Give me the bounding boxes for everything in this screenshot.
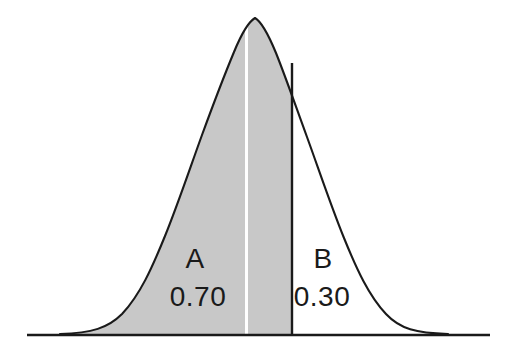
shaded-area-region-a <box>60 18 448 334</box>
normal-curve-figure: A 0.70 B 0.30 <box>0 0 518 356</box>
distribution-curve-chart <box>0 0 518 356</box>
region-b-letter-label: B <box>288 245 358 273</box>
region-b-value-label: 0.30 <box>274 283 370 311</box>
region-a-value-label: 0.70 <box>150 283 246 311</box>
region-a-letter-label: A <box>160 245 230 273</box>
